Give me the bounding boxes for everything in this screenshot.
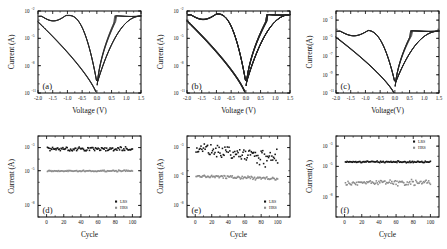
svg-text:-8: -8	[181, 61, 184, 65]
svg-text:-7: -7	[330, 52, 333, 56]
svg-text:10: 10	[323, 194, 329, 200]
svg-text:-5: -5	[32, 167, 35, 171]
svg-text:100: 100	[274, 219, 282, 225]
svg-text:80: 80	[113, 219, 119, 225]
svg-text:-5: -5	[32, 34, 35, 38]
svg-text:-8: -8	[181, 201, 184, 205]
svg-text:LRS: LRS	[418, 139, 425, 144]
svg-text:0: 0	[343, 219, 346, 225]
svg-text:Current (A): Current (A)	[7, 159, 16, 194]
svg-text:-8: -8	[32, 201, 35, 205]
legend: LRSHRS	[115, 199, 128, 210]
svg-text:Current (A): Current (A)	[156, 34, 165, 69]
panel-c: -2.0-1.5-1.0-0.50.00.51.01.510-1110-910-…	[298, 0, 447, 124]
svg-text:-6: -6	[181, 172, 184, 176]
svg-text:10: 10	[25, 202, 31, 208]
svg-text:-5: -5	[330, 34, 333, 38]
svg-text:10: 10	[25, 35, 31, 41]
svg-text:HRS: HRS	[120, 205, 128, 210]
svg-text:-0.5: -0.5	[78, 95, 87, 101]
svg-text:Current(A): Current(A)	[305, 35, 314, 68]
svg-text:1.5: 1.5	[287, 95, 294, 101]
svg-text:10: 10	[25, 144, 31, 150]
svg-text:-1.0: -1.0	[361, 95, 370, 101]
svg-text:-2.0: -2.0	[332, 95, 341, 101]
svg-text:-3: -3	[330, 142, 333, 146]
svg-text:-5: -5	[330, 162, 333, 166]
svg-text:-8: -8	[32, 61, 35, 65]
svg-text:-3: -3	[32, 143, 35, 147]
svg-text:Current(A): Current(A)	[305, 160, 314, 193]
svg-text:40: 40	[78, 219, 84, 225]
svg-text:0.5: 0.5	[406, 95, 413, 101]
svg-text:20: 20	[61, 219, 67, 225]
panel-f: 02040608010010-310-510-8LRSHRS(f)CycleCu…	[298, 124, 447, 248]
svg-text:40: 40	[226, 219, 232, 225]
svg-text:-0.5: -0.5	[376, 95, 385, 101]
svg-text:10: 10	[174, 202, 180, 208]
panel-e: 02040608010010-810-610-3LRSHRS(e)CycleCu…	[149, 124, 298, 248]
svg-text:-11: -11	[330, 89, 335, 93]
svg-text:-2: -2	[181, 7, 184, 11]
panel-d: 02040608010010-810-510-3LRSHRS(d)CycleCu…	[0, 124, 149, 248]
svg-text:Cycle: Cycle	[81, 230, 99, 239]
svg-text:HRS: HRS	[418, 145, 426, 150]
series-lrs	[195, 143, 278, 167]
svg-text:10: 10	[25, 90, 31, 96]
svg-text:-9: -9	[330, 71, 333, 75]
svg-text:0.5: 0.5	[108, 95, 115, 101]
svg-text:Current (A): Current (A)	[156, 159, 165, 194]
svg-text:HRS: HRS	[269, 205, 277, 210]
svg-text:10: 10	[25, 168, 31, 174]
svg-text:0: 0	[45, 219, 48, 225]
panel-a: -2.0-1.5-1.0-0.50.00.51.01.510-1110-810-…	[0, 0, 149, 124]
svg-text:-1.5: -1.5	[198, 95, 207, 101]
svg-text:10: 10	[174, 63, 180, 69]
svg-text:Voltage(V): Voltage(V)	[371, 106, 404, 115]
svg-text:10: 10	[174, 144, 180, 150]
svg-text:Cycle: Cycle	[379, 230, 397, 239]
svg-text:-11: -11	[181, 89, 186, 93]
series-hrs	[47, 169, 134, 172]
svg-text:10: 10	[174, 35, 180, 41]
svg-text:-0.5: -0.5	[227, 95, 236, 101]
svg-text:0.0: 0.0	[94, 95, 101, 101]
svg-text:Cycle: Cycle	[230, 230, 248, 239]
svg-text:Current (A): Current (A)	[7, 34, 16, 69]
svg-text:0.5: 0.5	[257, 95, 264, 101]
svg-text:10: 10	[174, 8, 180, 14]
legend: LRSHRS	[413, 139, 426, 150]
svg-text:LRS: LRS	[120, 199, 127, 204]
figure-panel-grid: -2.0-1.5-1.0-0.50.00.51.01.510-1110-810-…	[0, 0, 447, 249]
svg-text:0.0: 0.0	[392, 95, 399, 101]
svg-text:10: 10	[323, 53, 329, 59]
svg-text:(c): (c)	[341, 81, 351, 91]
svg-text:-1.0: -1.0	[63, 95, 72, 101]
svg-text:-3: -3	[181, 143, 184, 147]
svg-text:-1.5: -1.5	[49, 95, 58, 101]
svg-text:20: 20	[209, 219, 215, 225]
svg-text:LRS: LRS	[269, 199, 276, 204]
svg-text:-3: -3	[330, 16, 333, 20]
svg-text:100: 100	[129, 219, 137, 225]
series-hrs	[345, 179, 432, 187]
svg-text:10: 10	[323, 143, 329, 149]
svg-text:(e): (e)	[192, 205, 202, 215]
svg-text:-1.0: -1.0	[212, 95, 221, 101]
svg-text:60: 60	[394, 219, 400, 225]
svg-text:1.0: 1.0	[272, 95, 279, 101]
svg-text:1.0: 1.0	[123, 95, 130, 101]
svg-text:1.0: 1.0	[421, 95, 428, 101]
series-lrs	[345, 160, 432, 163]
svg-text:-2: -2	[32, 7, 35, 11]
svg-text:60: 60	[242, 219, 248, 225]
svg-text:80: 80	[411, 219, 417, 225]
svg-text:10: 10	[174, 90, 180, 96]
svg-text:0.0: 0.0	[243, 95, 250, 101]
svg-text:Voltage (V): Voltage (V)	[221, 106, 256, 115]
series-hrs	[195, 174, 278, 180]
svg-text:1.5: 1.5	[138, 95, 145, 101]
svg-text:(d): (d)	[43, 205, 53, 215]
svg-text:10: 10	[323, 35, 329, 41]
svg-text:(f): (f)	[341, 205, 350, 215]
